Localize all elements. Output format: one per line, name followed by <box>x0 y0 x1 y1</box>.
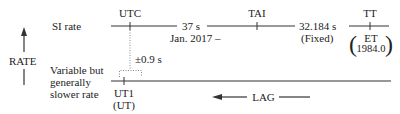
utc-label: UTC <box>115 7 145 19</box>
si-rate-label: SI rate <box>52 20 81 32</box>
lag-label: LAG <box>249 91 278 103</box>
rate-axis-label: RATE <box>9 55 37 67</box>
ut1-tolerance-bracket <box>120 71 142 78</box>
tt-label: TT <box>355 7 385 19</box>
ut-label: (UT) <box>108 99 140 111</box>
rate-arrow-head-icon <box>21 27 27 36</box>
tai-label: TAI <box>242 7 272 19</box>
tai-tt-offset-value: 32.184 s <box>299 20 336 32</box>
utc-tai-offset-note: Jan. 2017 – <box>170 32 220 44</box>
et-close-paren: ) <box>385 32 393 56</box>
utc-ut1-offset-value: ±0.9 s <box>135 53 162 65</box>
variable-rate-label-line2: generally <box>50 76 91 88</box>
tai-tt-offset-note: (Fixed) <box>301 32 333 44</box>
utc-tai-offset-value: 37 s <box>182 20 200 32</box>
ut1-label: UT1 <box>108 87 140 99</box>
variable-rate-label-line3: slower rate <box>50 88 99 100</box>
variable-rate-label-line1: Variable but <box>50 64 103 76</box>
et-year-label: 1984.0 <box>354 43 388 55</box>
